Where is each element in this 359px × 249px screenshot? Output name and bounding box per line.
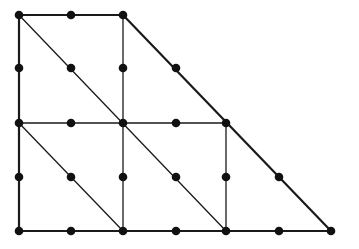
lattice-diagram [0,0,359,249]
node-d3 [172,173,181,182]
node-a1 [67,11,76,20]
node-e5 [275,227,284,236]
node-a2 [119,11,128,20]
node-c0 [15,119,24,128]
node-e6 [327,227,336,236]
node-e0 [15,227,24,236]
node-e3 [172,227,181,236]
node-a0 [15,11,24,20]
node-b2 [119,64,128,73]
node-b0 [15,64,24,73]
node-d1 [67,173,76,182]
node-d0 [15,173,24,182]
node-c4 [222,119,231,128]
node-d4 [222,173,231,182]
node-e1 [67,227,76,236]
node-c1 [67,119,76,128]
node-e2 [119,227,128,236]
node-c2 [119,119,128,128]
node-c3 [172,119,181,128]
node-b1 [67,64,76,73]
node-e4 [222,227,231,236]
node-d2 [119,173,128,182]
node-b3 [172,64,181,73]
node-d5 [275,173,284,182]
